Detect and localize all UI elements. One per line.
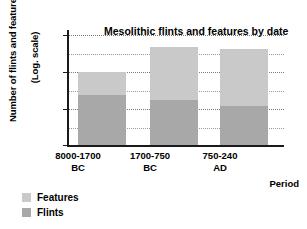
x-axis-title: Period [269,178,299,189]
bar-group-8000-1700-bc[interactable] [78,72,126,145]
bar-segment-features[interactable] [220,49,268,106]
y-axis-line [67,30,69,146]
y-axis-title-line2: (Log. scale) [29,0,40,133]
legend-label-flints: Flints [37,208,64,218]
legend-swatch-flints-icon [22,208,31,217]
bar-segment-flints[interactable] [150,100,198,145]
x-tick-label-2-line2: AD [177,162,263,174]
gridline-1000 [68,35,284,36]
bar-segment-flints[interactable] [220,106,268,145]
bar-group-750-240-ad[interactable] [220,49,268,145]
bar-segment-flints[interactable] [78,95,126,145]
legend-label-features: Features [37,193,79,203]
y-axis-title-line1: Number of flints and features [7,0,18,133]
bar-segment-features[interactable] [78,72,126,95]
chart-container: Number of flints and features (Log. scal… [0,0,307,229]
legend-swatch-features-icon [22,193,31,202]
x-tick-label-2: 750-240 AD [177,150,263,174]
legend: Features Flints [22,190,79,220]
legend-item-flints[interactable]: Flints [22,205,79,220]
x-tick-label-2-line1: 750-240 [177,150,263,162]
bar-group-1700-750-bc[interactable] [150,47,198,145]
x-axis-line [67,145,284,147]
legend-item-features[interactable]: Features [22,190,79,205]
y-axis-title: Number of flints and features (Log. scal… [0,0,51,133]
bar-segment-features[interactable] [150,47,198,100]
plot-area: 1000 100 10 0 [68,30,284,146]
